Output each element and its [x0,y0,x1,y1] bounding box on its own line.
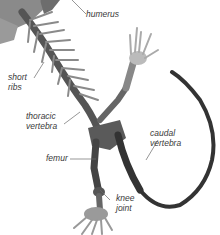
label-humerus: humerus [86,10,119,20]
rear-limb [74,142,112,234]
label-thoracic-vertebra: thoracic vertebra [26,112,57,131]
front-limb [100,28,158,120]
label-caudal-vertebra: caudal vertebra [150,129,181,148]
label-short-ribs: short ribs [8,73,27,92]
label-knee-joint: knee joint [116,194,134,213]
skeleton-diagram: humerus short ribs thoracic vertebra fem… [0,0,220,235]
label-femur: femur [46,154,68,164]
